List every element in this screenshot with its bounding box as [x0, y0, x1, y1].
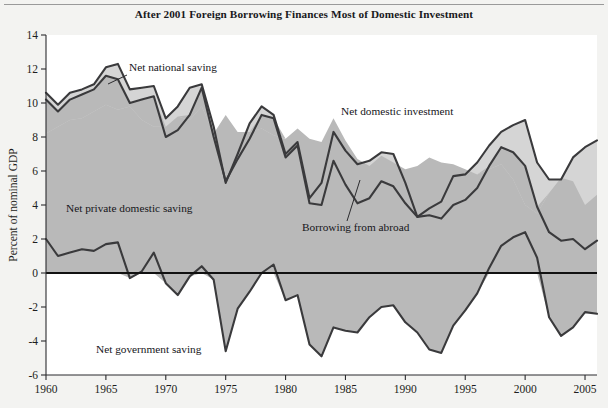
svg-text:Net national saving: Net national saving — [129, 61, 217, 73]
chart-plot-area: -6-4-20246810121419601965197019751980198… — [0, 0, 608, 408]
svg-text:12: 12 — [27, 63, 39, 75]
svg-text:1990: 1990 — [394, 383, 417, 395]
svg-text:1995: 1995 — [454, 383, 477, 395]
svg-text:6: 6 — [32, 165, 38, 177]
svg-text:1980: 1980 — [274, 383, 297, 395]
svg-text:1965: 1965 — [94, 383, 117, 395]
svg-text:1970: 1970 — [154, 383, 177, 395]
svg-text:-4: -4 — [28, 335, 38, 347]
svg-text:Net government saving: Net government saving — [96, 343, 202, 355]
svg-text:Net private domestic saving: Net private domestic saving — [66, 202, 193, 214]
svg-text:-2: -2 — [28, 301, 38, 313]
svg-text:Percent of nominal GDP: Percent of nominal GDP — [7, 148, 19, 261]
svg-text:0: 0 — [32, 267, 38, 279]
svg-text:1975: 1975 — [214, 383, 237, 395]
svg-text:Net domestic investment: Net domestic investment — [341, 105, 454, 117]
svg-text:2: 2 — [32, 233, 38, 245]
chart-figure: After 2001 Foreign Borrowing Finances Mo… — [0, 0, 608, 408]
svg-text:4: 4 — [32, 199, 38, 211]
svg-text:2005: 2005 — [574, 383, 597, 395]
svg-text:14: 14 — [27, 29, 39, 41]
svg-text:1985: 1985 — [334, 383, 357, 395]
svg-text:1960: 1960 — [35, 383, 58, 395]
svg-text:2000: 2000 — [514, 383, 537, 395]
svg-text:8: 8 — [32, 131, 38, 143]
svg-text:-6: -6 — [28, 369, 38, 381]
svg-text:10: 10 — [27, 97, 39, 109]
svg-text:Borrowing from abroad: Borrowing from abroad — [302, 221, 410, 233]
